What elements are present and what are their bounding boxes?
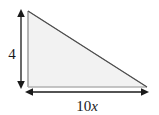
figure-container: 4 10x [0,0,159,115]
height-dimension-label: 4 [8,46,16,62]
right-triangle-diagram: 4 10x [0,0,159,115]
base-dimension-label-number: 10 [76,98,91,114]
base-dimension-label: 10x [76,98,98,114]
base-dimension-label-variable: x [90,98,98,114]
